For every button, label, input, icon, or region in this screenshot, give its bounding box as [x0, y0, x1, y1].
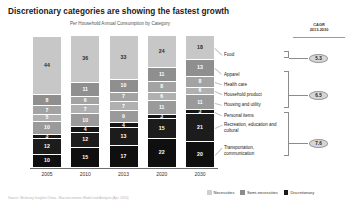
bar-segment[interactable]: 24	[148, 36, 176, 68]
bar-group-2010[interactable]: 3611671041215	[71, 36, 99, 168]
bar-segment[interactable]: 20	[186, 142, 214, 168]
bar-value-label: 8	[46, 98, 49, 103]
cagr-pill-0: 5.3	[309, 54, 328, 63]
bar-group-2005[interactable]: 448751031210	[33, 36, 61, 168]
legend-item[interactable]: Semi-necessities	[240, 190, 277, 195]
legend-item[interactable]: Discretionary	[284, 190, 314, 195]
chart-subtitle: Per Household Annual Consumption by Cate…	[0, 21, 240, 26]
x-axis-label-2005: 2005	[32, 171, 62, 177]
bar-segment[interactable]: 33	[110, 36, 138, 80]
bar-segment[interactable]: 13	[186, 60, 214, 77]
bar-segment[interactable]: 8	[186, 77, 214, 88]
bar-segment[interactable]: 6	[186, 88, 214, 96]
bar-group-2020[interactable]: 2411861131522	[148, 36, 176, 168]
bar-value-label: 10	[121, 83, 127, 88]
leader-line	[215, 48, 222, 55]
legend-swatch	[284, 190, 289, 195]
x-axis-label-2020: 2020	[147, 171, 177, 177]
leader-line	[215, 82, 222, 85]
bar-segment[interactable]: 15	[71, 148, 99, 168]
bar-segment[interactable]: 13	[110, 128, 138, 145]
bar-value-label: 10	[82, 118, 88, 123]
category-label-housing-and-utility: Housing and utility	[224, 102, 261, 108]
bar-value-label: 21	[197, 125, 203, 130]
cagr-connector	[289, 95, 308, 96]
bar-segment[interactable]: 12	[71, 133, 99, 149]
bar-value-label: 22	[159, 150, 165, 155]
bar-segment[interactable]: 6	[148, 93, 176, 101]
leader-line	[215, 112, 222, 116]
bar-segment[interactable]: 10	[33, 155, 61, 168]
x-axis-label-2030: 2030	[185, 171, 215, 177]
bar-segment[interactable]: 7	[110, 102, 138, 111]
bar-segment[interactable]: 7	[71, 105, 99, 114]
legend-label: Necessities	[214, 190, 235, 195]
bar-segment[interactable]: 18	[186, 36, 214, 60]
leader-line	[215, 125, 222, 129]
bar-value-label: 7	[84, 107, 87, 112]
bar-value-label: 17	[121, 154, 127, 159]
bar-value-label: 7	[46, 108, 49, 113]
bar-segment[interactable]: 12	[33, 139, 61, 155]
bar-segment[interactable]: 11	[148, 68, 176, 83]
bar-segment[interactable]: 10	[110, 80, 138, 93]
bar-value-label: 18	[197, 45, 203, 50]
bar-value-label: 11	[159, 72, 164, 77]
bar-value-label: 4	[122, 123, 125, 128]
cagr-brace	[284, 51, 289, 58]
bar-value-label: 36	[82, 56, 88, 61]
bar-value-label: 4	[84, 127, 87, 132]
bar-segment[interactable]: 9	[110, 111, 138, 123]
bar-value-label: 12	[44, 144, 50, 149]
bar-value-label: 11	[83, 87, 88, 92]
bar-segment[interactable]: 44	[33, 37, 61, 95]
bar-segment[interactable]: 21	[186, 114, 214, 142]
category-label-household-product: Household product	[224, 92, 262, 98]
bar-segment[interactable]: 11	[186, 95, 214, 110]
bar-segment[interactable]: 22	[148, 139, 176, 168]
source-note: Source: Mckinsey Insights China - Macroe…	[8, 196, 129, 200]
bar-segment[interactable]: 7	[33, 106, 61, 115]
page-title: Discretionary categories are showing the…	[8, 7, 229, 16]
cagr-header-line2: 2013-2030	[293, 27, 345, 32]
bar-value-label: 9	[122, 114, 125, 119]
cagr-connector	[289, 143, 308, 144]
bar-segment[interactable]: 10	[71, 114, 99, 127]
x-axis-label-2010: 2010	[70, 171, 100, 177]
bar-value-label: 7	[122, 104, 125, 109]
bar-segment[interactable]: 6	[71, 97, 99, 105]
chart-page: Discretionary categories are showing the…	[0, 0, 351, 210]
bar-group-2030[interactable]: 1813861132120	[186, 36, 214, 168]
bar-segment[interactable]: 15	[148, 119, 176, 139]
chart-legend: NecessitiesSemi-necessitiesDiscretionary	[207, 190, 314, 195]
bar-value-label: 13	[121, 134, 127, 139]
bar-segment[interactable]: 8	[33, 95, 61, 106]
cagr-header: CAGR 2013-2030	[293, 22, 345, 33]
bar-value-label: 20	[197, 152, 203, 157]
bar-value-label: 8	[199, 79, 202, 84]
legend-label: Discretionary	[290, 190, 314, 195]
bar-segment[interactable]: 11	[71, 83, 99, 97]
bar-segment[interactable]: 10	[33, 122, 61, 135]
bar-value-label: 6	[160, 94, 163, 99]
leader-line	[215, 91, 222, 94]
bar-segment[interactable]: 5	[33, 115, 61, 122]
bar-segment[interactable]: 17	[110, 146, 138, 168]
category-label-apparel: Apparel	[224, 72, 240, 78]
legend-item[interactable]: Necessities	[207, 190, 234, 195]
leader-line	[215, 103, 222, 105]
bar-segment[interactable]: 7	[110, 93, 138, 102]
cagr-brace	[284, 112, 289, 156]
bar-group-2013[interactable]: 331077941317	[110, 36, 138, 168]
category-label-food: Food	[224, 52, 234, 58]
bar-segment[interactable]: 36	[71, 36, 99, 83]
legend-swatch	[207, 190, 212, 195]
cagr-pill-1: 6.5	[309, 91, 328, 100]
x-axis-line	[30, 168, 218, 169]
bar-segment[interactable]: 11	[148, 101, 176, 116]
category-label-health-care: Health care	[224, 82, 247, 88]
bar-value-label: 10	[44, 125, 50, 130]
bar-value-label: 15	[159, 126, 165, 131]
leader-line	[215, 68, 222, 74]
bar-segment[interactable]: 8	[148, 82, 176, 93]
